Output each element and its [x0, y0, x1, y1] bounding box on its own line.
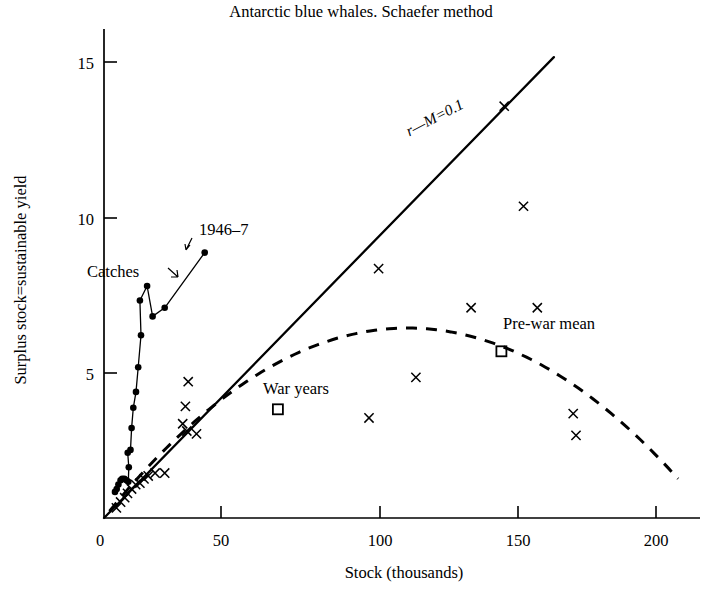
- x-tick-label-150: 150: [506, 531, 531, 550]
- catches-data-point: [161, 305, 168, 312]
- curves-group: [104, 57, 678, 518]
- y-tick-label-15: 15: [78, 54, 95, 73]
- observation-x-marker: [181, 402, 190, 411]
- year-1946-7-label: 1946–7: [199, 220, 249, 239]
- catches-data-point: [201, 249, 208, 256]
- observation-x-marker: [184, 377, 193, 386]
- catches-leader-arrow: [168, 268, 178, 277]
- observation-x-marker: [519, 202, 528, 211]
- catches-data-point: [127, 447, 134, 454]
- catches-data-point: [149, 313, 156, 320]
- schaefer-parabola: [110, 328, 679, 511]
- year-leader-arrow: [185, 238, 192, 250]
- catches-data-point: [138, 332, 145, 339]
- catches-data-point: [126, 464, 133, 471]
- axes-group: 15 10 5 0 50 100 150 200: [78, 29, 701, 550]
- y-axis-title: Surplus stock=sustainable yield: [11, 175, 30, 385]
- catches-label: Catches: [87, 262, 139, 281]
- chart-canvas: Antarctic blue whales. Schaefer method 1…: [0, 0, 722, 590]
- chart-title: Antarctic blue whales. Schaefer method: [229, 2, 493, 21]
- observation-x-marker: [411, 373, 420, 382]
- x-tick-label-100: 100: [368, 531, 393, 550]
- catches-series: [112, 249, 208, 495]
- y-tick-label-5: 5: [86, 365, 94, 384]
- observation-x-marker: [467, 303, 476, 312]
- x-tick-label-0: 0: [96, 531, 104, 550]
- war-years-label: War years: [263, 379, 329, 398]
- observation-x-marker: [569, 409, 578, 418]
- observation-x-marker: [533, 303, 542, 312]
- catches-data-point: [125, 479, 132, 486]
- catches-data-point: [144, 283, 151, 290]
- x-tick-label-50: 50: [213, 531, 230, 550]
- y-tick-label-10: 10: [78, 210, 95, 229]
- observation-x-marker: [374, 264, 383, 273]
- observation-x-marker: [571, 431, 580, 440]
- observation-series: [112, 102, 581, 513]
- catches-data-point: [130, 405, 137, 412]
- observation-x-marker: [192, 429, 201, 438]
- replacement-line: [104, 57, 554, 518]
- figure-container: Antarctic blue whales. Schaefer method 1…: [0, 0, 722, 590]
- annotations-group: r—M=0.1 Catches 1946–7 War years Pre-war…: [87, 95, 595, 398]
- observation-x-marker: [364, 413, 373, 422]
- x-axis-title: Stock (thousands): [345, 563, 464, 582]
- catches-data-point: [128, 425, 135, 432]
- line-label-r-minus-m: r—M=0.1: [403, 95, 466, 139]
- catches-data-point: [137, 297, 144, 304]
- catches-data-point: [133, 389, 140, 396]
- catches-data-point: [135, 364, 142, 371]
- pre-war-mean-label: Pre-war mean: [503, 314, 595, 333]
- war-years-marker: [273, 404, 283, 414]
- observation-x-marker: [160, 468, 169, 477]
- x-tick-label-200: 200: [644, 531, 669, 550]
